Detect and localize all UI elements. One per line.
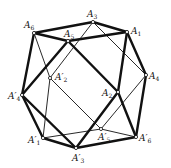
- thick-edge-A5-A4p: [22, 41, 68, 95]
- vertex-A4p: [20, 93, 23, 96]
- vertex-A2: [116, 90, 119, 93]
- vertex-A6: [32, 31, 35, 34]
- vertex-label-A4: A4: [148, 71, 160, 82]
- vertex-label-A4p: A′4: [7, 91, 21, 102]
- polyhedron-diagram: A6A3A1A5A′2A4A′4A2A′1A′5A′6A′3: [0, 0, 171, 168]
- vertex-label-A3: A3: [86, 9, 98, 20]
- vertex-A1: [125, 30, 128, 33]
- vertex-A3: [91, 20, 94, 23]
- thin-edge-A3-A2p: [50, 22, 93, 78]
- visible-edges: [22, 22, 146, 148]
- thick-edge-A5-A1: [68, 32, 127, 41]
- thick-edge-A6-A4p: [22, 33, 34, 95]
- thick-edge-A4-A6p: [136, 75, 146, 137]
- thick-edge-A1-A2: [118, 32, 127, 92]
- vertex-label-A2p: A′2: [54, 72, 68, 83]
- vertex-label-A3p: A′3: [71, 153, 85, 164]
- vertex-label-A5p: A′5: [97, 132, 111, 143]
- vertex-A5: [66, 39, 69, 42]
- vertex-label-A1p: A′1: [27, 135, 40, 146]
- thick-edge-A3p-A2: [76, 92, 118, 148]
- thick-edge-A1-A4: [127, 32, 146, 75]
- vertex-A4: [144, 73, 147, 76]
- vertex-A2p: [48, 76, 51, 79]
- thick-edge-A6-A5: [34, 33, 68, 41]
- vertex-label-A6p: A′6: [138, 133, 152, 144]
- thick-edge-A4p-A1p: [22, 95, 43, 138]
- vertex-label-A2: A2: [101, 88, 113, 99]
- vertex-label-A6: A6: [23, 20, 35, 31]
- thin-edge-A1p-A5p: [43, 129, 101, 138]
- vertex-A3p: [74, 146, 77, 149]
- thick-edge-A2-A6p: [118, 92, 136, 137]
- thin-edge-A2p-A5p: [50, 78, 101, 129]
- vertex-label-A5: A5: [63, 29, 75, 40]
- vertex-A5p: [99, 127, 102, 130]
- vertex-A6p: [134, 135, 137, 138]
- diagram-canvas: A6A3A1A5A′2A4A′4A2A′1A′5A′6A′3: [0, 0, 171, 168]
- vertex-label-A1: A1: [130, 26, 141, 37]
- thick-edge-A5-A2: [68, 41, 118, 92]
- vertex-A1p: [41, 136, 44, 139]
- thin-edge-A2p-A1p: [43, 78, 50, 138]
